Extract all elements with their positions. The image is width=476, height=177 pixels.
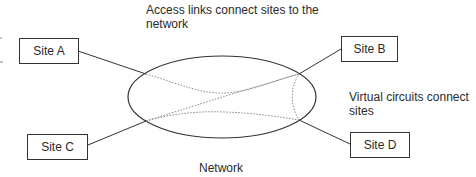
network-ellipse: [128, 56, 316, 138]
site-c-box: Site C: [27, 134, 88, 160]
network-label: Network: [199, 161, 243, 175]
access-link-a: [78, 51, 146, 74]
access-links-annotation: Access links connect sites to the networ…: [146, 3, 326, 31]
access-link-b: [299, 49, 341, 74]
access-link-d: [299, 120, 350, 144]
site-d-label: Site D: [364, 138, 397, 152]
site-b-label: Site B: [353, 42, 385, 56]
site-b-box: Site B: [341, 36, 398, 62]
virtual-circuit-c-d: [146, 112, 299, 121]
site-d-box: Site D: [350, 132, 410, 158]
virtual-circuit-a-b: [146, 74, 299, 93]
site-a-label: Site A: [33, 44, 64, 58]
access-link-c: [88, 121, 146, 145]
site-c-label: Site C: [41, 140, 74, 154]
site-a-box: Site A: [19, 38, 79, 64]
virtual-circuit-b-d: [292, 74, 299, 120]
virtual-circuit-c-b: [146, 74, 299, 121]
network-diagram: Access links connect sites to the networ…: [0, 0, 476, 177]
virtual-circuits-annotation: Virtual circuits connect sites: [349, 90, 474, 118]
